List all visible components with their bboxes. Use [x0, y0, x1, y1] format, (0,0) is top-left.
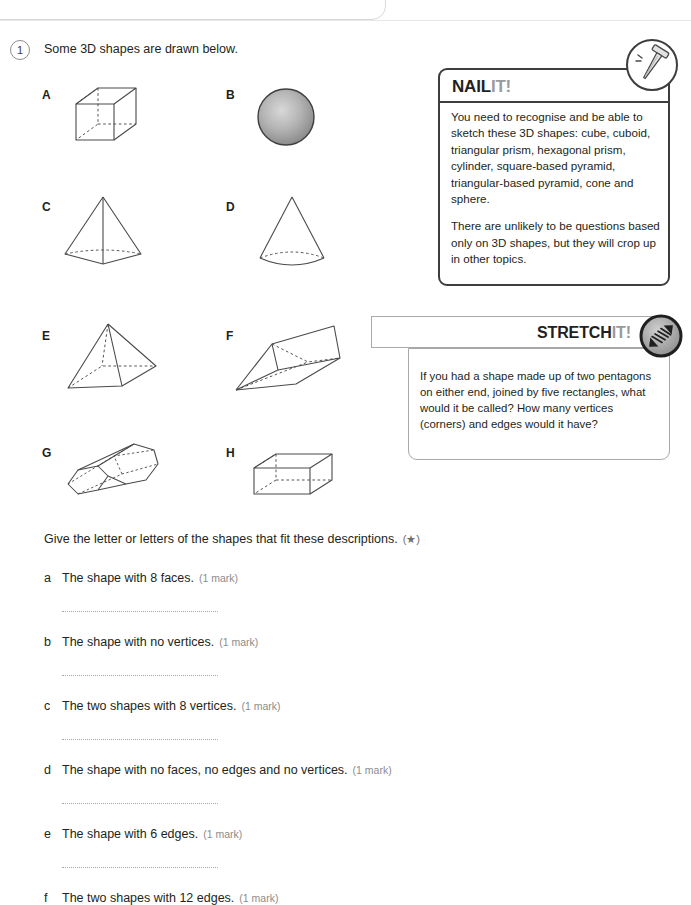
subquestion-a: aThe shape with 8 faces.(1 mark) [44, 571, 238, 585]
nail-it-title-dark: NAIL [452, 77, 491, 96]
subquestion-marks: (1 mark) [199, 572, 238, 584]
subquestion-marks: (1 mark) [239, 892, 278, 904]
subquestion-text: The two shapes with 12 edges. [62, 891, 234, 905]
shape-label-g: G [42, 446, 51, 460]
square-based-pyramid-icon [60, 320, 164, 404]
subquestion-marks: (1 mark) [241, 700, 280, 712]
shape-label-b: B [226, 88, 235, 102]
hexagonal-prism-icon [58, 440, 168, 508]
subquestion-text: The shape with no faces, no edges and no… [62, 763, 348, 777]
subquestion-d: dThe shape with no faces, no edges and n… [44, 763, 392, 777]
nail-it-paragraph: There are unlikely to be questions based… [451, 218, 663, 267]
nail-icon [625, 38, 679, 92]
answer-line-b[interactable] [62, 674, 218, 676]
triangular-prism-icon [230, 322, 348, 400]
subquestion-letter: a [44, 571, 62, 585]
shape-label-d: D [226, 200, 235, 214]
subquestion-letter: c [44, 699, 62, 713]
nail-it-body: You need to recognise and be able to ske… [451, 109, 663, 268]
subquestion-e: eThe shape with 6 edges.(1 mark) [44, 827, 242, 841]
subquestion-marks: (1 mark) [353, 764, 392, 776]
nail-it-title-light: IT! [491, 77, 511, 96]
stretch-it-header: STRETCHIT! [371, 316, 668, 348]
subquestion-text: The two shapes with 8 vertices. [62, 699, 236, 713]
subquestion-letter: b [44, 635, 62, 649]
chapter-header-bar: 3D shapes [0, 0, 386, 20]
shape-label-a: A [42, 88, 51, 102]
shape-label-e: E [42, 329, 50, 343]
answer-line-e[interactable] [62, 866, 218, 868]
stretch-it-title-dark: STRETCH [537, 324, 612, 341]
cone-icon [250, 192, 334, 272]
subquestion-c: cThe two shapes with 8 vertices.(1 mark) [44, 699, 280, 713]
subquestion-f: fThe two shapes with 12 edges.(1 mark) [44, 891, 278, 905]
subquestion-letter: f [44, 891, 62, 905]
cube-icon [70, 82, 148, 150]
question-stem: Some 3D shapes are drawn below. [44, 42, 238, 56]
subquestion-marks: (1 mark) [219, 636, 258, 648]
question-number-badge: 1 [10, 40, 30, 60]
triangular-based-pyramid-icon [56, 192, 150, 270]
stretch-it-text: If you had a shape made up of two pentag… [420, 368, 660, 432]
nail-it-callout: NAILIT! You need to recognise and be abl… [438, 68, 670, 286]
stretch-it-callout: If you had a shape made up of two pentag… [408, 348, 670, 460]
subquestion-letter: d [44, 763, 62, 777]
nail-it-title: NAILIT! [452, 77, 511, 97]
subquestion-text: The shape with no vertices. [62, 635, 214, 649]
spring-arrows-icon [639, 314, 683, 358]
stretch-it-title-light: IT! [612, 324, 631, 341]
shape-label-c: C [42, 200, 51, 214]
sphere-icon [253, 86, 319, 148]
stretch-it-title: STRETCHIT! [537, 324, 631, 342]
subquestion-marks: (1 mark) [203, 828, 242, 840]
nail-it-paragraph: You need to recognise and be able to ske… [451, 109, 663, 207]
subquestion-text: The shape with 8 faces. [62, 571, 194, 585]
subquestion-letter: e [44, 827, 62, 841]
answer-line-a[interactable] [62, 610, 218, 612]
subquestion-b: bThe shape with no vertices.(1 mark) [44, 635, 258, 649]
subquestions-intro-text: Give the letter or letters of the shapes… [44, 532, 398, 546]
cuboid-icon [248, 448, 344, 506]
subquestions-intro: Give the letter or letters of the shapes… [44, 532, 420, 546]
subquestion-text: The shape with 6 edges. [62, 827, 198, 841]
difficulty-star: (★) [403, 533, 420, 545]
shape-label-h: H [226, 446, 235, 460]
header-divider [0, 20, 691, 21]
answer-line-c[interactable] [62, 738, 218, 740]
answer-line-d[interactable] [62, 802, 218, 804]
